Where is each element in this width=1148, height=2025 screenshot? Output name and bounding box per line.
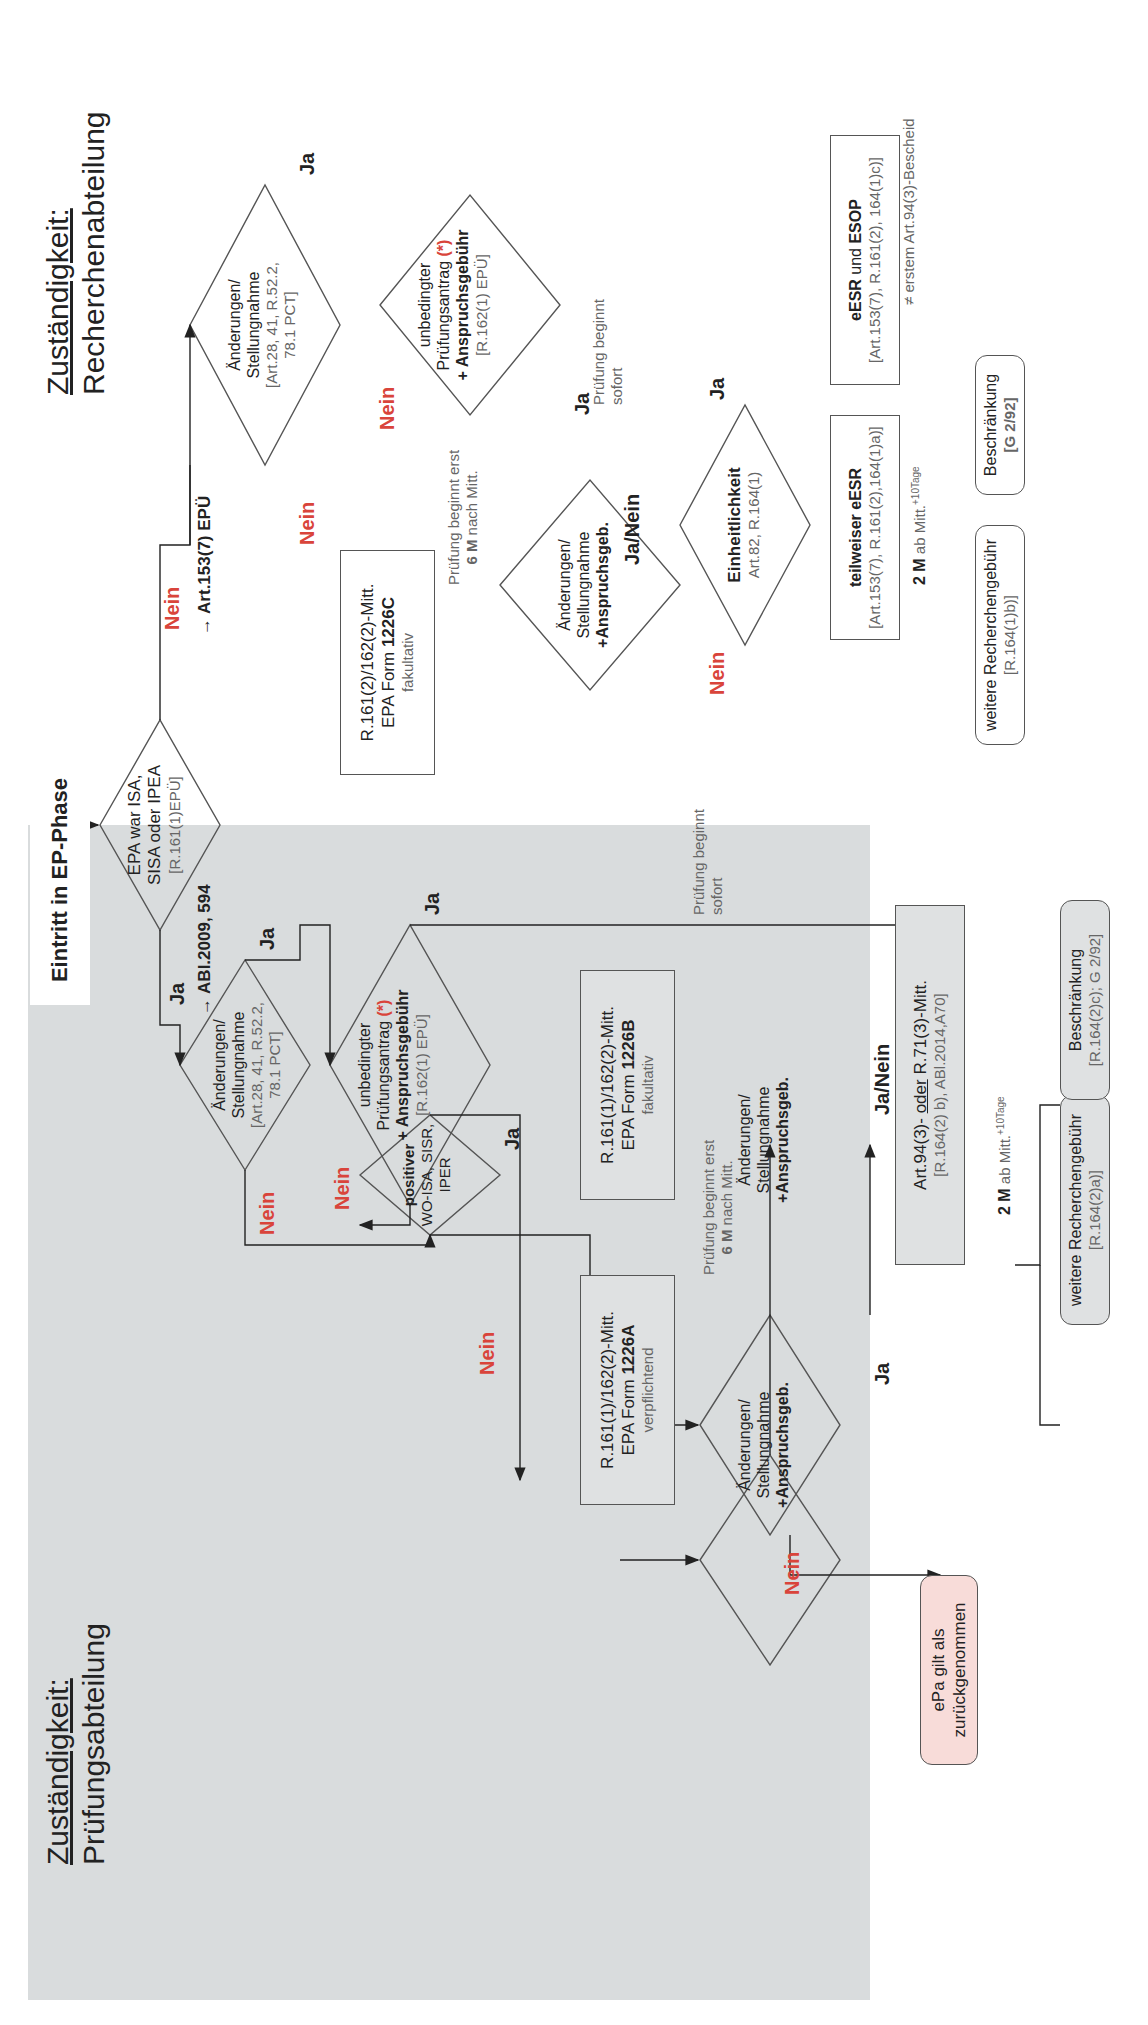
line1: Prüfung beginnt erst bbox=[445, 450, 463, 585]
flowchart-stage: Zuständigkeit: Prüfungsabteilung Zuständ… bbox=[0, 0, 1148, 2025]
rest: ab Mitt. bbox=[911, 505, 928, 558]
ref2: 78.1 PCT] bbox=[281, 245, 299, 405]
positive-ja: Ja bbox=[500, 1128, 524, 1150]
form-1226b-box: R.161(1)/162(2)-Mitt. EPA Form 1226B fak… bbox=[580, 970, 675, 1200]
line1: Änderungen/ bbox=[555, 515, 574, 655]
line2-bold: 6 M bbox=[718, 1230, 735, 1255]
amend-a-ja: Ja bbox=[870, 1363, 894, 1385]
line2: Stellungnahme bbox=[229, 985, 248, 1145]
right-exam-nein: Nein bbox=[375, 387, 399, 430]
partial-esr-box: teilweiser eESR [Art.153(7), R.161(2),16… bbox=[830, 415, 900, 640]
line1: unbedingter bbox=[415, 225, 434, 385]
line1: Einheitlichkeit bbox=[725, 445, 745, 605]
ref: [G 2/92] bbox=[1001, 397, 1020, 452]
line1: Beschränkung bbox=[1066, 949, 1086, 1051]
amend-b-decision: Änderungen/ Stellungnahme +Anspruchsgeb. bbox=[735, 1070, 793, 1210]
form-1226a-box: R.161(1)/162(2)-Mitt. EPA Form 1226A ver… bbox=[580, 1275, 675, 1505]
right-amend-nein: Nein bbox=[295, 502, 319, 545]
start-box: Eintritt in EP-Phase bbox=[30, 755, 90, 1005]
mid: und bbox=[847, 244, 864, 280]
line2-bold: 1226A bbox=[619, 1324, 638, 1374]
right-ref-label: → Art.153(7) EPÜ bbox=[195, 496, 215, 635]
b2: ESOP bbox=[847, 199, 864, 243]
positive-decision: positiver WO-ISA, SISR, IPER bbox=[400, 1105, 454, 1245]
left-ja-label: Ja bbox=[165, 983, 189, 1005]
ref: [Art.153(7), R.161(2), 164(1)c)] bbox=[866, 157, 885, 363]
line1: ePa gilt als bbox=[928, 1628, 949, 1711]
right-exam-ja-note: Prüfung beginnt sofort bbox=[590, 299, 626, 405]
positive-nein: Nein bbox=[475, 1332, 499, 1375]
line1: R.161(2)/162(2)-Mitt. bbox=[357, 584, 378, 742]
right-restriction-box: Beschränkung [G 2/92] bbox=[975, 355, 1025, 495]
right-amend-ja: Ja bbox=[295, 153, 319, 175]
sup: +10Tage bbox=[995, 1096, 1006, 1135]
unity-nein: Nein bbox=[705, 652, 729, 695]
root-line1: EPA war ISA, bbox=[125, 755, 145, 895]
form-1226c-box: R.161(2)/162(2)-Mitt. EPA Form 1226C fak… bbox=[340, 550, 435, 775]
line2-bold: 1226C bbox=[379, 597, 398, 647]
line2: Prüfungsantrag bbox=[435, 261, 452, 370]
right-delay-note: Prüfung beginnt erst 6 M nach Mitt. bbox=[445, 450, 481, 585]
amend-a-decision: Änderungen/ Stellungnahme +Anspruchsgeb. bbox=[735, 1375, 793, 1515]
line2-bold: 6 M bbox=[463, 540, 480, 565]
line2: WO-ISA, SISR, bbox=[418, 1105, 436, 1245]
right-amend-decision: Änderungen/ Stellungnahme [Art.28, 41, R… bbox=[225, 245, 299, 405]
right-exam-decision: unbedingter Prüfungsantrag (*) + Anspruc… bbox=[415, 225, 491, 385]
art94-box: Art.94(3)- oder R.71(3)-Mitt. [R.164(2) … bbox=[895, 905, 965, 1265]
left-amend-nein: Nein bbox=[255, 1192, 279, 1235]
line3: +Anspruchsgeb. bbox=[773, 1375, 792, 1515]
line1: R.161(1)/162(2)-Mitt. bbox=[597, 1006, 618, 1164]
line2: Prüfungsantrag bbox=[375, 1021, 392, 1130]
line2-pre: EPA Form bbox=[379, 647, 398, 728]
root-decision: EPA war ISA, SISA oder IPEA [R.161(1)EPÜ… bbox=[125, 755, 184, 895]
ref: [R.164(2)c); G 2/92] bbox=[1086, 934, 1105, 1067]
ref: [R.164(1)b)] bbox=[1001, 595, 1020, 675]
line2-pre: EPA Form bbox=[619, 1070, 638, 1151]
line2-bold: 1226B bbox=[619, 1019, 638, 1069]
line2: Stellungnahme bbox=[244, 245, 263, 405]
unity-decision: Einheitlichkeit Art.82, R.164(1) bbox=[725, 445, 763, 605]
bold: 2 M bbox=[996, 1188, 1013, 1215]
line1-post: R.71(3)-Mitt. bbox=[911, 980, 930, 1079]
root-line2: SISA oder IPEA bbox=[145, 755, 165, 895]
left-exam-nein: Nein bbox=[330, 1167, 354, 1210]
star: (*) bbox=[435, 240, 452, 257]
start-label: Eintritt in EP-Phase bbox=[46, 778, 74, 982]
right-further-fee-box: weitere Recherchengebühr [R.164(1)b)] bbox=[975, 525, 1025, 745]
ref: [Art.153(7), R.161(2),164(1)a)] bbox=[866, 426, 885, 629]
line1: positiver bbox=[400, 1105, 418, 1245]
line3: +Anspruchsgeb. bbox=[773, 1070, 792, 1210]
line2: zurückgenommen bbox=[949, 1602, 970, 1737]
line3: + Anspruchsgebühr bbox=[453, 225, 472, 385]
ref: [R.164(2)a)] bbox=[1086, 1170, 1105, 1250]
line2: Stellungnahme bbox=[754, 1070, 773, 1210]
sup: +10Tage bbox=[910, 466, 921, 505]
ref: [R.162(1) EPÜ] bbox=[473, 225, 491, 385]
left-exam-ja-note: Prüfung beginnt sofort bbox=[690, 809, 726, 915]
line2-pre: EPA Form bbox=[619, 1375, 638, 1456]
amend-b-label: Ja/Nein bbox=[870, 1044, 894, 1115]
amend-a-nein: Nein bbox=[780, 1552, 804, 1595]
line2: sofort bbox=[708, 809, 726, 915]
bold: 2 M bbox=[911, 558, 928, 585]
line1: Änderungen/ bbox=[735, 1375, 754, 1515]
left-deadline: 2 M ab Mitt.+10Tage bbox=[995, 1096, 1015, 1215]
ref1: [Art.28, 41, R.52.2, bbox=[248, 985, 266, 1145]
line3: verpflichtend bbox=[639, 1347, 658, 1432]
esr-esop-box: eESR und ESOP [Art.153(7), R.161(2), 164… bbox=[830, 135, 900, 385]
line2: Stellungnahme bbox=[754, 1375, 773, 1515]
line1: Prüfung beginnt erst bbox=[700, 1140, 718, 1275]
withdrawn-box: ePa gilt als zurückgenommen bbox=[920, 1575, 978, 1765]
line1: Änderungen/ bbox=[210, 985, 229, 1145]
left-exam-ja: Ja bbox=[420, 893, 444, 915]
left-amend-ja: Ja bbox=[255, 928, 279, 950]
line2: Stellungnahme bbox=[574, 515, 593, 655]
amend-c-decision: Änderungen/ Stellungnahme +Anspruchsgeb. bbox=[555, 515, 613, 655]
rest: ab Mitt. bbox=[996, 1135, 1013, 1188]
esop-note: ≠ erstem Art.94(3)-Bescheid bbox=[900, 118, 918, 305]
line1: R.161(1)/162(2)-Mitt. bbox=[597, 1311, 618, 1469]
right-nein-label: Nein bbox=[160, 587, 184, 630]
unity-ja: Ja bbox=[705, 378, 729, 400]
left-further-fee-box: weitere Recherchengebühr [R.164(2)a)] bbox=[1060, 1095, 1110, 1325]
root-ref: [R.161(1)EPÜ] bbox=[166, 755, 184, 895]
